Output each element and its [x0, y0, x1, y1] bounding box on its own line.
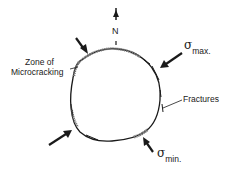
stress-arrow-ne-icon [160, 53, 182, 68]
borehole-outline [71, 49, 161, 142]
north-label: N [112, 26, 119, 36]
sigma-symbol: σ [157, 146, 165, 160]
sigma-symbol: σ [184, 38, 192, 52]
fractures-leader-line [163, 100, 182, 108]
microcracking-zones [72, 49, 148, 137]
borehole-breakout-diagram: N Zone of Microcracking Fractures σmax. … [0, 0, 231, 174]
sigma-min-subscript: min. [165, 154, 181, 164]
sigma-max-subscript: max. [192, 46, 210, 56]
stress-arrow-nw-icon [76, 38, 88, 54]
microcracking-label: Microcracking [11, 67, 63, 77]
sigma-max-label: σmax. [184, 40, 211, 51]
zone-of-label: Zone of [25, 57, 54, 67]
stress-arrow-sw-icon [49, 130, 72, 145]
sigma-min-label: σmin. [157, 148, 181, 159]
stress-arrow-se-icon [143, 137, 153, 152]
fractures-label: Fractures [183, 94, 219, 104]
